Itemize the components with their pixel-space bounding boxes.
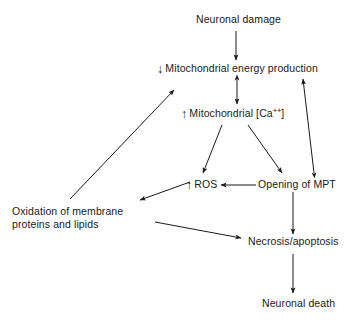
node-mitochondrial-calcium-text: Mitochondrial [Ca — [189, 107, 272, 119]
up-arrow-icon: ↑ — [181, 109, 187, 119]
node-necrosis-apoptosis-text: Necrosis/apoptosis — [248, 235, 339, 247]
node-ros-text: ROS — [194, 178, 217, 190]
node-opening-of-mpt: Opening of MPT — [258, 178, 336, 191]
node-necrosis-apoptosis: Necrosis/apoptosis — [248, 235, 339, 248]
arrow-calcium-to-ros — [203, 125, 222, 173]
node-oxidation-line-1: Oxidation of membrane — [12, 205, 123, 217]
arrow-mpt-energy-bidirectional — [303, 79, 314, 173]
node-ros: ↑ROS — [186, 178, 217, 191]
node-oxidation-of-membrane: Oxidation of membrane proteins and lipid… — [12, 205, 144, 230]
node-neuronal-death: Neuronal death — [262, 297, 335, 310]
node-mitochondrial-calcium-superscript: ++ — [273, 106, 281, 115]
flowchart-diagram: Neuronal damage ↓Mitochondrial energy pr… — [0, 0, 359, 322]
arrow-calcium-to-mpt — [248, 125, 282, 173]
node-neuronal-damage: Neuronal damage — [196, 13, 281, 26]
node-mitochondrial-calcium-text-close: ] — [281, 107, 284, 119]
node-neuronal-damage-text: Neuronal damage — [196, 13, 281, 25]
node-opening-of-mpt-text: Opening of MPT — [258, 178, 336, 190]
node-neuronal-death-text: Neuronal death — [262, 297, 335, 309]
node-mitochondrial-energy-production-text: Mitochondrial energy production — [165, 62, 318, 74]
arrow-oxidation-to-energy — [70, 90, 174, 199]
up-arrow-icon: ↑ — [186, 180, 192, 190]
arrow-ros-to-oxidation — [140, 182, 190, 200]
arrow-oxidation-to-necrosis — [155, 222, 241, 238]
down-arrow-icon: ↓ — [157, 64, 163, 74]
node-mitochondrial-energy-production: ↓Mitochondrial energy production — [157, 62, 318, 75]
node-mitochondrial-calcium: ↑Mitochondrial [Ca++] — [181, 107, 284, 120]
flowchart-arrows-layer — [0, 0, 359, 322]
node-oxidation-line-2: proteins and lipids — [12, 218, 99, 230]
